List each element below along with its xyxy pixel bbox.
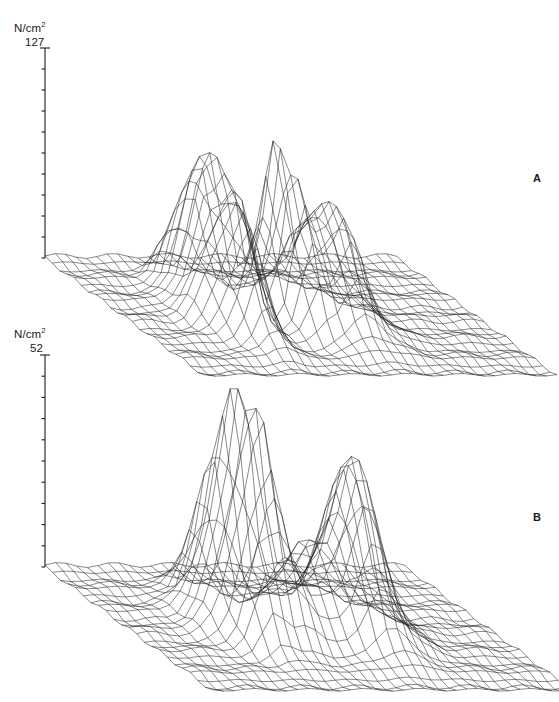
panel-a: N/cm2 127 A: [0, 0, 559, 351]
surface-plot-b: [0, 305, 559, 702]
panel-letter-b: B: [533, 511, 541, 523]
pressure-distribution-figure: N/cm2 127 A N/cm2 52 B: [0, 0, 559, 702]
surface-plot-a: [0, 0, 559, 351]
panel-b: N/cm2 52 B: [0, 305, 559, 702]
panel-letter-a: A: [533, 172, 541, 184]
